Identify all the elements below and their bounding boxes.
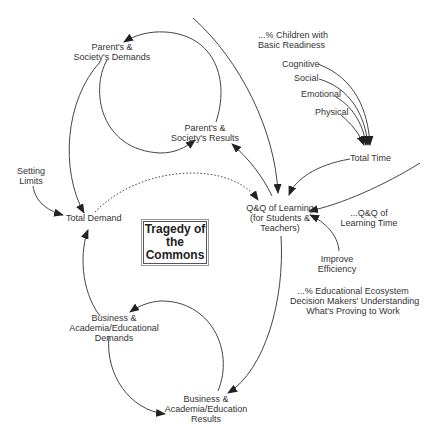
node-parents-demands: Parent's & Society's Demands bbox=[72, 42, 152, 62]
node-total-time: Total Time bbox=[350, 153, 391, 163]
node-cognitive: Cognitive bbox=[282, 59, 320, 69]
node-qq-learning-time: ...Q&Q of Learning Time bbox=[337, 208, 401, 228]
node-qq-learning: Q&Q of Learning (for Students & Teachers… bbox=[242, 203, 318, 233]
link-qq-learning-to-business-results bbox=[228, 236, 282, 393]
link-business-demands-to-results bbox=[109, 336, 165, 414]
link-setting-limits-to-total-demand bbox=[33, 186, 63, 215]
link-right-to-qq-learning bbox=[309, 163, 420, 211]
node-physical: Physical bbox=[315, 107, 349, 117]
link-physical-to-total-time bbox=[341, 115, 364, 145]
link-qq-learning-to-parents-results bbox=[232, 144, 272, 196]
link-business-demands-to-total-demand bbox=[83, 230, 100, 316]
link-cognitive-to-total-time bbox=[318, 64, 370, 145]
node-setting-limits: Setting Limits bbox=[14, 166, 48, 186]
node-improve-efficiency: Improve Efficiency bbox=[312, 254, 362, 274]
node-social: Social bbox=[294, 73, 319, 83]
node-ecosystem-understanding: ...% Educational Ecosystem Decision Make… bbox=[290, 286, 416, 316]
link-parents-demands-to-total-demand bbox=[69, 62, 100, 213]
node-business-results: Business & Academia/Education Results bbox=[164, 394, 248, 424]
node-business-demands: Business & Academia/Educational Demands bbox=[68, 313, 160, 343]
node-children-readiness: ...% Children with Basic Readiness bbox=[258, 30, 338, 50]
link-total-time-to-qq-learning bbox=[289, 159, 350, 195]
diagram-title: Tragedy of the Commons bbox=[143, 221, 207, 264]
node-total-demand: Total Demand bbox=[66, 213, 122, 223]
node-emotional: Emotional bbox=[301, 89, 341, 99]
node-parents-results: Parent's & Society's Results bbox=[170, 123, 240, 143]
link-total-demand-to-qq-learning bbox=[95, 173, 258, 212]
